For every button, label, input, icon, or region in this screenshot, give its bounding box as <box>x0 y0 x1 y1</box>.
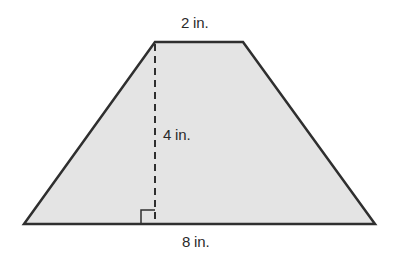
height-label: 4 in. <box>163 126 190 143</box>
bottom-base-label: 8 in. <box>182 233 209 250</box>
trapezoid-shape <box>24 42 375 224</box>
top-base-label: 2 in. <box>181 14 208 31</box>
trapezoid-diagram <box>0 0 393 267</box>
